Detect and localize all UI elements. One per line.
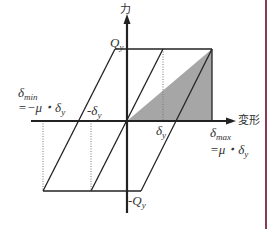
neg-delta-y-label: -δy [87,104,101,120]
right-border [265,0,267,229]
qy-label: Qy [110,36,123,52]
delta-max-label: δmax [210,126,231,142]
energy-shaded-area [127,49,212,121]
x-axis-label: 変形 [238,115,260,126]
delta-y-label: δy [156,124,166,140]
x-axis-arrow-icon [226,118,236,125]
y-axis-label: 力 [120,4,131,15]
delta-min-equation: =−μ・δy [18,101,65,117]
neg-qy-label: -Qy [128,194,146,210]
delta-max-equation: =μ・δy [210,143,248,159]
